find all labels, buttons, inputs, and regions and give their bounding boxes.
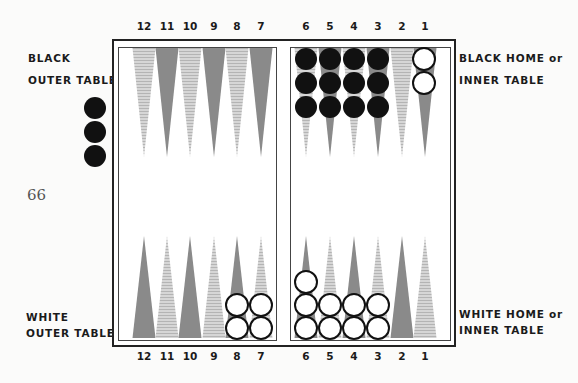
black-checker[interactable] bbox=[295, 72, 317, 94]
point-top-11[interactable] bbox=[156, 48, 179, 157]
black-checker[interactable] bbox=[319, 48, 341, 70]
white-checker[interactable] bbox=[413, 48, 435, 70]
black-checker[interactable] bbox=[319, 72, 341, 94]
white-checker[interactable] bbox=[319, 294, 341, 316]
white-checker[interactable] bbox=[250, 317, 272, 339]
black-checker[interactable] bbox=[295, 48, 317, 70]
white-checker[interactable] bbox=[226, 294, 248, 316]
white-checker[interactable] bbox=[343, 294, 365, 316]
point-top-9[interactable] bbox=[203, 48, 226, 157]
point-bottom-9[interactable] bbox=[203, 236, 226, 338]
white-checker[interactable] bbox=[343, 317, 365, 339]
point-top-2[interactable] bbox=[391, 48, 414, 157]
point-top-7[interactable] bbox=[250, 48, 273, 157]
black-checker[interactable] bbox=[367, 72, 389, 94]
black-checker[interactable] bbox=[343, 72, 365, 94]
board-graphics bbox=[0, 0, 578, 383]
point-top-12[interactable] bbox=[133, 48, 156, 157]
white-checker[interactable] bbox=[319, 317, 341, 339]
point-top-10[interactable] bbox=[179, 48, 202, 157]
white-checker[interactable] bbox=[226, 317, 248, 339]
point-top-8[interactable] bbox=[226, 48, 249, 157]
black-checker[interactable] bbox=[343, 48, 365, 70]
black-checker[interactable] bbox=[367, 48, 389, 70]
black-checker[interactable] bbox=[319, 96, 341, 118]
black-checker[interactable] bbox=[84, 121, 106, 143]
point-bottom-12[interactable] bbox=[133, 236, 156, 338]
black-checker[interactable] bbox=[295, 96, 317, 118]
black-checker[interactable] bbox=[84, 145, 106, 167]
point-bottom-10[interactable] bbox=[179, 236, 202, 338]
white-checker[interactable] bbox=[295, 294, 317, 316]
white-checker[interactable] bbox=[367, 317, 389, 339]
white-checker[interactable] bbox=[367, 294, 389, 316]
white-checker[interactable] bbox=[295, 271, 317, 293]
point-bottom-1[interactable] bbox=[414, 236, 437, 338]
point-bottom-11[interactable] bbox=[156, 236, 179, 338]
white-checker[interactable] bbox=[413, 72, 435, 94]
black-checker[interactable] bbox=[367, 96, 389, 118]
white-checker[interactable] bbox=[250, 294, 272, 316]
white-checker[interactable] bbox=[295, 317, 317, 339]
black-checker[interactable] bbox=[343, 96, 365, 118]
black-checker[interactable] bbox=[84, 97, 106, 119]
point-bottom-2[interactable] bbox=[391, 236, 414, 338]
